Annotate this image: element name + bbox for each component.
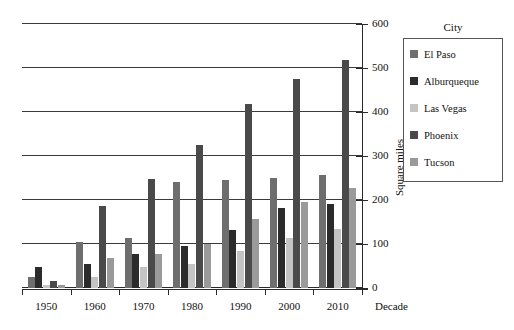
x-tick-label-1980: 1980: [168, 300, 217, 312]
bar-el-paso-1990: [222, 180, 229, 288]
bar-cluster-1950: [28, 24, 65, 288]
x-axis-title: Decade: [375, 300, 408, 312]
bar-tucson-1950: [58, 285, 65, 288]
legend-box: El PasoAlburquequeLas VegasPhoenixTucson: [403, 38, 503, 182]
bar-phoenix-1990: [245, 104, 252, 288]
bar-las-vegas-1990: [237, 251, 244, 288]
bar-tucson-1990: [252, 219, 259, 288]
x-tick-0: [22, 289, 23, 295]
chart-figure: 0100200300400500600 19501960197019801990…: [0, 0, 514, 330]
legend-item-alburqueque[interactable]: Alburqueque: [410, 75, 479, 87]
bar-phoenix-1960: [99, 206, 106, 288]
y-tick-500: [356, 68, 368, 69]
legend-item-el-paso[interactable]: El Paso: [410, 48, 456, 60]
legend-label: Alburqueque: [424, 76, 479, 87]
x-tick-7: [362, 289, 363, 295]
plot-area: [22, 24, 362, 288]
bar-alburqueque-1950: [35, 267, 42, 288]
y-tick-label-300: 300: [372, 150, 389, 161]
bar-alburqueque-1960: [84, 264, 91, 288]
bar-cluster-1980: [173, 24, 210, 288]
x-tick-label-1950: 1950: [22, 300, 71, 312]
bar-el-paso-1960: [76, 242, 83, 288]
y-tick-400: [356, 112, 368, 113]
bar-tucson-1960: [107, 258, 114, 288]
legend-label: Tucson: [424, 157, 455, 168]
y-tick-200: [356, 200, 368, 201]
bar-las-vegas-1970: [140, 267, 147, 288]
bar-alburqueque-1990: [229, 230, 236, 288]
x-tick-3: [168, 289, 169, 295]
y-tick-label-100: 100: [372, 238, 389, 249]
bar-alburqueque-2000: [278, 208, 285, 288]
y-tick-600: [356, 24, 368, 25]
bar-las-vegas-2000: [286, 238, 293, 288]
bar-tucson-1970: [155, 254, 162, 288]
y-tick-label-500: 500: [372, 62, 389, 73]
legend-label: El Paso: [424, 49, 456, 60]
bar-las-vegas-1950: [43, 285, 50, 288]
legend-item-tucson[interactable]: Tucson: [410, 156, 455, 168]
bar-el-paso-2010: [319, 175, 326, 288]
bar-cluster-1970: [125, 24, 162, 288]
bar-las-vegas-1960: [91, 277, 98, 288]
legend-item-las-vegas[interactable]: Las Vegas: [410, 102, 467, 114]
y-tick-label-600: 600: [372, 18, 389, 29]
bar-las-vegas-1980: [188, 264, 195, 288]
y-tick-300: [356, 156, 368, 157]
x-tick-label-1970: 1970: [119, 300, 168, 312]
bar-el-paso-1970: [125, 238, 132, 288]
legend-swatch-icon: [410, 77, 418, 85]
y-tick-label-200: 200: [372, 194, 389, 205]
bar-alburqueque-1970: [132, 254, 139, 288]
x-tick-label-2000: 2000: [265, 300, 314, 312]
bar-alburqueque-2010: [327, 204, 334, 288]
bar-alburqueque-1980: [181, 246, 188, 288]
x-tick-2: [119, 289, 120, 295]
x-tick-6: [313, 289, 314, 295]
legend-title: City: [398, 21, 508, 33]
bar-phoenix-1950: [50, 281, 57, 288]
x-tick-4: [216, 289, 217, 295]
legend-swatch-icon: [410, 131, 418, 139]
bar-phoenix-2010: [342, 60, 349, 288]
y-tick-100: [356, 244, 368, 245]
bar-cluster-2010: [319, 24, 356, 288]
bar-cluster-2000: [270, 24, 307, 288]
y-tick-label-0: 0: [372, 282, 378, 293]
bar-phoenix-1970: [148, 179, 155, 288]
legend-swatch-icon: [410, 104, 418, 112]
x-tick-1: [71, 289, 72, 295]
legend-label: Phoenix: [424, 130, 458, 141]
legend-swatch-icon: [410, 158, 418, 166]
x-tick-label-1990: 1990: [216, 300, 265, 312]
bar-el-paso-2000: [270, 178, 277, 288]
legend-swatch-icon: [410, 50, 418, 58]
y-tick-label-400: 400: [372, 106, 389, 117]
bar-tucson-1980: [204, 244, 211, 288]
bar-el-paso-1950: [28, 277, 35, 288]
bar-el-paso-1980: [173, 182, 180, 288]
legend-item-phoenix[interactable]: Phoenix: [410, 129, 458, 141]
legend-label: Las Vegas: [424, 103, 467, 114]
bar-phoenix-1980: [196, 145, 203, 288]
x-tick-5: [265, 289, 266, 295]
x-tick-label-2010: 2010: [313, 300, 362, 312]
bar-las-vegas-2010: [334, 229, 341, 288]
x-axis-line: [22, 289, 368, 290]
bar-phoenix-2000: [293, 79, 300, 288]
x-tick-label-1960: 1960: [71, 300, 120, 312]
bar-tucson-2000: [301, 202, 308, 288]
bar-cluster-1960: [76, 24, 113, 288]
bar-cluster-1990: [222, 24, 259, 288]
bar-tucson-2010: [349, 188, 356, 288]
